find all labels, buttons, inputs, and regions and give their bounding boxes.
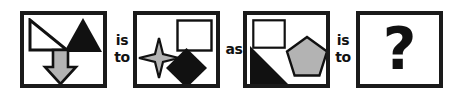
panel-c-content xyxy=(247,15,326,84)
gray-down-arrow-shape xyxy=(42,48,79,84)
connector-is-to-1: is to xyxy=(109,32,135,66)
connector-line-2: to xyxy=(330,49,356,66)
panel-a-content xyxy=(24,15,103,84)
panel-b-content xyxy=(137,15,216,84)
black-diamond-shape xyxy=(165,47,208,84)
connector-line-1: is xyxy=(109,32,135,49)
panel-b xyxy=(133,11,220,88)
gray-pentagon-shape xyxy=(285,35,326,79)
question-mark-glyph: ? xyxy=(360,15,439,84)
panel-c xyxy=(243,11,330,88)
panel-answer[interactable]: ? xyxy=(356,11,443,88)
panel-a xyxy=(20,11,107,88)
visual-analogy-puzzle: is to as xyxy=(0,0,456,99)
panel-answer-content: ? xyxy=(360,15,439,84)
connector-line-2: to xyxy=(109,49,135,66)
black-right-triangle-shape xyxy=(248,45,290,84)
connector-is-to-2: is to xyxy=(330,32,356,66)
connector-line-1: is xyxy=(330,32,356,49)
